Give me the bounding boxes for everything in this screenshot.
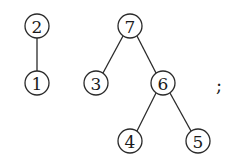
- forest-diagram: 2 1 7 3 6 4 5 ;: [0, 0, 236, 168]
- edge-6-5: [170, 93, 191, 131]
- tree-node-7: 7: [118, 14, 142, 38]
- tree-node-3: 3: [84, 71, 108, 95]
- node-label: 5: [193, 132, 204, 152]
- tree-node-1: 1: [25, 71, 49, 95]
- edge-6-4: [137, 93, 156, 131]
- node-label: 2: [32, 17, 43, 37]
- node-label: 3: [91, 74, 102, 94]
- edge-7-6: [137, 36, 156, 73]
- node-label: 4: [125, 132, 136, 152]
- node-label: 6: [158, 74, 169, 94]
- trailing-semicolon: ;: [216, 75, 222, 96]
- edge-7-3: [103, 36, 123, 73]
- node-label: 7: [125, 17, 136, 37]
- tree-node-5: 5: [186, 129, 210, 153]
- node-label: 1: [32, 74, 43, 94]
- tree-node-6: 6: [151, 71, 175, 95]
- tree-node-2: 2: [25, 14, 49, 38]
- tree-node-4: 4: [118, 129, 142, 153]
